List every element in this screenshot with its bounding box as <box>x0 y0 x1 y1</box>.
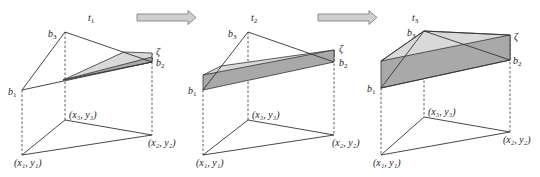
time-label: t1 <box>88 12 95 25</box>
b1-label: b1 <box>8 86 17 99</box>
panel-t3: t3 b3 b1 ζ b2 (x₃, y₃) (x₂, y₂) (x₁, y₁) <box>367 12 531 169</box>
p3-label: (x₃, y₃) <box>252 109 280 121</box>
right-arrow-icon <box>318 11 377 25</box>
base-triangle <box>381 117 510 155</box>
b3-label: b3 <box>48 28 57 41</box>
b1-label: b1 <box>188 85 197 98</box>
p2-label: (x₂, y₂) <box>332 137 360 149</box>
p1-label: (x₁, y₁) <box>373 157 401 169</box>
zeta-label: ζ <box>339 43 344 55</box>
time-label: t3 <box>412 12 419 25</box>
b2-label: b2 <box>156 57 165 70</box>
right-arrow-icon <box>137 11 196 25</box>
panel-t2: t2 b3 b1 ζ b2 (x₃, y₃) (x₂, y₂) (x₁, y₁) <box>188 12 360 169</box>
p1-label: (x₁, y₁) <box>14 157 42 169</box>
panel-t1: t1 b3 b1 ζ b2 (x₃, y₃) (x₂, y₂) (x₁, y₁) <box>8 12 176 169</box>
base-triangle <box>22 120 152 155</box>
b3-label: b3 <box>407 27 416 40</box>
b1-label: b1 <box>367 83 376 96</box>
p1-label: (x₁, y₁) <box>196 157 224 169</box>
b2-label: b2 <box>339 57 348 70</box>
b3-label: b3 <box>228 28 237 41</box>
prism-evolution-diagram: t1 b3 b1 ζ b2 (x₃, y₃) (x₂, y₂) (x₁, y₁)… <box>0 0 540 177</box>
zeta-label: ζ <box>514 31 519 43</box>
p3-label: (x₃, y₃) <box>428 106 456 118</box>
p2-label: (x₂, y₂) <box>503 134 531 146</box>
p3-label: (x₃, y₃) <box>69 109 97 121</box>
base-triangle <box>203 120 334 155</box>
time-label: t2 <box>251 12 258 25</box>
zeta-plane <box>63 52 152 80</box>
b2-label: b2 <box>513 55 522 68</box>
p2-label: (x₂, y₂) <box>148 137 176 149</box>
